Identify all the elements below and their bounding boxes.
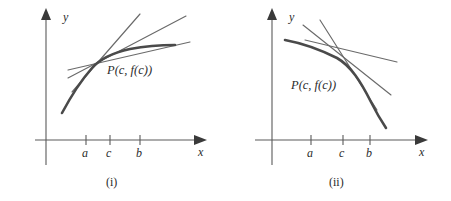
- y-axis-arrow-icon: [267, 8, 277, 20]
- point-label-P: P(c, f(c)): [291, 79, 336, 92]
- tick-label-c: c: [339, 147, 344, 159]
- tick-label-a: a: [82, 147, 88, 159]
- figure-secant-tangent-lines: y x a c b P(c, f(c)) (i) y x: [0, 0, 451, 201]
- panel-caption-ii: (ii): [329, 176, 344, 188]
- x-axis-label: x: [419, 146, 424, 158]
- panel-ii: y x a c b P(c, f(c)) (ii): [225, 0, 451, 201]
- tick-label-a: a: [307, 147, 313, 159]
- y-axis-label: y: [289, 11, 294, 23]
- tick-label-b: b: [366, 147, 372, 159]
- x-axis-arrow-icon: [194, 135, 207, 145]
- panel-i-plot: [0, 0, 226, 201]
- tick-label-b: b: [136, 147, 142, 159]
- tick-label-c: c: [106, 147, 111, 159]
- panel-i: y x a c b P(c, f(c)) (i): [0, 0, 226, 201]
- x-axis-label: x: [198, 146, 203, 158]
- function-curve: [62, 45, 175, 113]
- x-axis-arrow-icon: [415, 135, 428, 145]
- panel-caption-i: (i): [106, 176, 117, 188]
- y-axis-arrow-icon: [41, 8, 51, 20]
- panel-ii-plot: [225, 0, 451, 201]
- y-axis-label: y: [63, 11, 68, 23]
- point-label-P: P(c, f(c)): [107, 64, 152, 77]
